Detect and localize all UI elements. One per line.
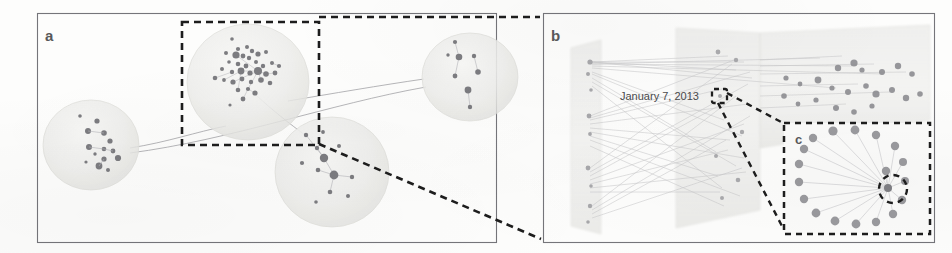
panel-a bbox=[38, 14, 519, 243]
panel-c bbox=[784, 123, 930, 234]
cluster-right bbox=[422, 33, 518, 121]
panel-c-hub-node bbox=[884, 184, 892, 192]
cluster-left bbox=[43, 100, 139, 190]
cluster-top-centre bbox=[187, 24, 309, 140]
panel-a-label: a bbox=[45, 28, 53, 43]
panel-b-label: b bbox=[551, 28, 560, 43]
cluster-bottom-centre bbox=[275, 117, 389, 227]
date-annotation: January 7, 2013 bbox=[620, 91, 699, 102]
layer-1-plane bbox=[571, 40, 601, 234]
panel-c-label: c bbox=[795, 133, 802, 146]
figure-canvas bbox=[0, 0, 952, 253]
figure-container: a b c January 7, 2013 bbox=[0, 0, 952, 253]
panel-a-clusters bbox=[43, 24, 518, 227]
